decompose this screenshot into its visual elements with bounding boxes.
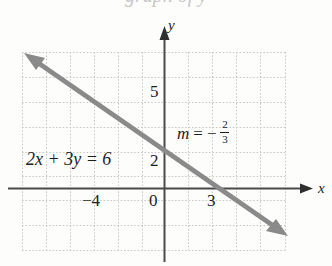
- slope-fraction: 2 3: [220, 119, 229, 145]
- x-axis-arrowhead: [300, 184, 313, 194]
- slope-annotation: m = − 2 3: [177, 120, 229, 146]
- equation-annotation: 2x + 3y = 6: [26, 150, 111, 168]
- graph-figure: graph of y: [0, 0, 332, 266]
- y-axis: [160, 26, 170, 262]
- slope-negative-sign: −: [207, 125, 217, 142]
- slope-variable: m: [177, 125, 189, 142]
- coordinate-plane: [0, 0, 332, 266]
- x-axis: [8, 184, 313, 194]
- y-tick-label-2: 2: [150, 152, 159, 169]
- x-tick-label-neg4: −4: [82, 192, 100, 209]
- x-axis-label: x: [318, 181, 325, 196]
- x-tick-label-3: 3: [207, 192, 216, 209]
- fraction-numerator: 2: [221, 119, 229, 131]
- x-tick-label-origin: 0: [149, 192, 158, 209]
- y-tick-label-5: 5: [150, 83, 159, 100]
- fraction-denominator: 3: [221, 134, 229, 146]
- slope-equals-sign: =: [193, 125, 203, 142]
- y-axis-label: y: [168, 18, 175, 33]
